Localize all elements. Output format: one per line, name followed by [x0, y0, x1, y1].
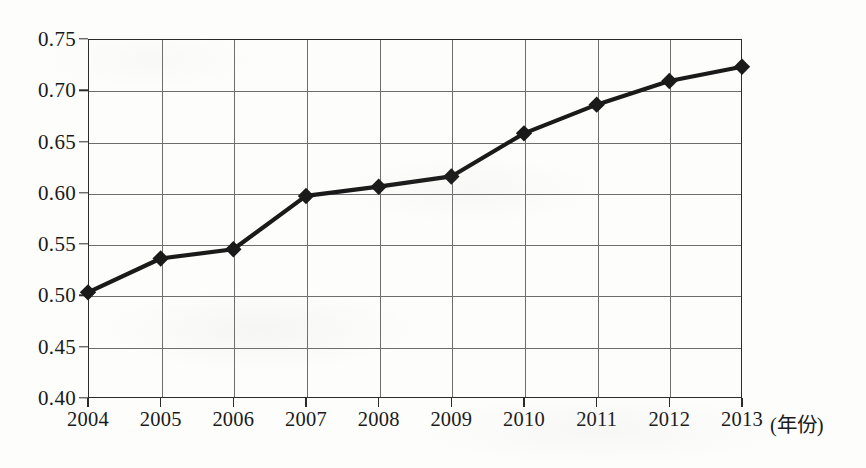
data-point-marker — [661, 73, 677, 89]
data-point-marker — [370, 179, 386, 195]
series-line — [88, 67, 742, 293]
data-point-marker — [588, 96, 604, 112]
line-chart-figure: 0.750.700.650.600.550.500.450.40 2004200… — [0, 0, 866, 468]
data-point-marker — [152, 250, 168, 266]
data-point-marker — [80, 284, 96, 300]
data-series-layer — [0, 0, 866, 468]
data-point-marker — [734, 58, 750, 74]
